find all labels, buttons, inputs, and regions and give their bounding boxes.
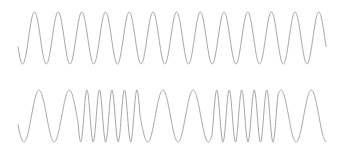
waveform-svg — [0, 0, 338, 159]
waveform-panel — [0, 0, 338, 159]
